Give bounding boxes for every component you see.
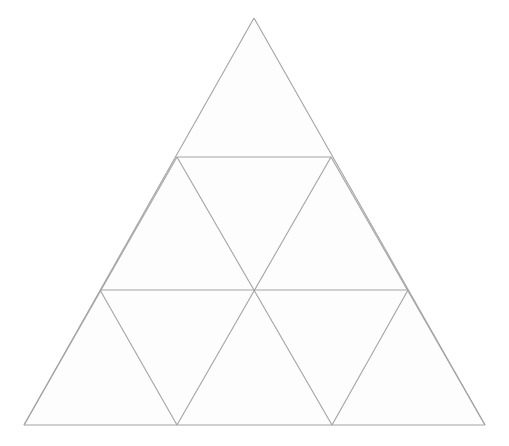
subdivided-triangle-figure (0, 0, 509, 446)
figure-canvas (0, 0, 509, 446)
